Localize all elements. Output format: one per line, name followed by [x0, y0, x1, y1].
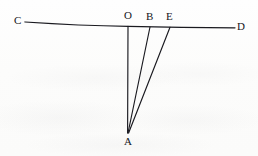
- point-label-e: E: [166, 11, 173, 22]
- point-label-c: C: [14, 15, 21, 26]
- segment-ea: [129, 27, 170, 133]
- geometry-figure: C O B E D A: [0, 0, 258, 156]
- segment-ba: [128, 27, 150, 133]
- point-label-o: O: [124, 10, 132, 21]
- point-label-b: B: [146, 11, 153, 22]
- point-label-a: A: [124, 136, 132, 147]
- figure-canvas: [0, 0, 258, 156]
- line-cd: [25, 22, 235, 28]
- point-label-d: D: [237, 21, 245, 32]
